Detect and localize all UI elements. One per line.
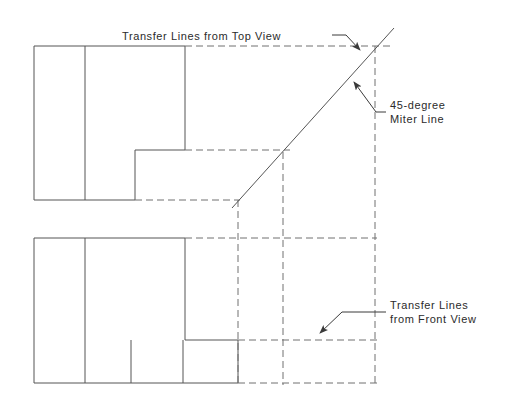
top-view-label-leader-line xyxy=(332,35,360,50)
top-view-outline xyxy=(34,46,185,200)
drawing-canvas: Transfer Lines from Top View 45-degree M… xyxy=(0,0,508,398)
transfer-lines-from-top-view xyxy=(135,46,392,200)
vertical-projection-lines xyxy=(238,46,375,385)
front-view-label-leader-line xyxy=(320,312,386,333)
technical-drawing: Transfer Lines from Top View 45-degree M… xyxy=(0,0,508,398)
front-view-outline xyxy=(34,238,238,383)
front-view-group xyxy=(34,238,238,383)
label-miter-line-first: 45-degree xyxy=(390,99,446,111)
label-transfer-lines-from-top-view: Transfer Lines from Top View xyxy=(122,30,281,42)
top-view-group xyxy=(34,46,185,200)
miter-line-45-degree xyxy=(232,28,394,208)
label-transfer-lines-front-second: from Front View xyxy=(390,313,476,325)
label-miter-line-second: Miter Line xyxy=(390,113,444,125)
transfer-lines-from-front-view xyxy=(185,238,377,383)
miter-label-leader-line xyxy=(354,82,386,112)
label-transfer-lines-front-first: Transfer Lines xyxy=(390,299,468,311)
